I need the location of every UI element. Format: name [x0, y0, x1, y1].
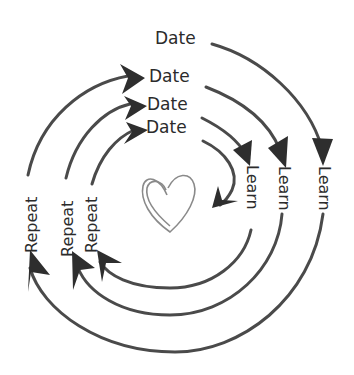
label-learn-outer: Learn	[315, 166, 334, 211]
arrowhead-heart-inner	[212, 186, 238, 208]
arrow-date-to-learn-second	[206, 87, 280, 150]
label-learn-third: Learn	[243, 165, 262, 210]
label-date-outer: Date	[155, 28, 196, 48]
label-repeat-second: Repeat	[58, 201, 77, 257]
label-repeat-outer: Repeat	[22, 197, 41, 253]
arrow-learn-to-repeat-third	[100, 230, 251, 288]
arrowhead-learn-outer	[312, 138, 333, 166]
arrow-repeat-to-date-outer	[28, 76, 128, 175]
arrowhead-date-second	[124, 96, 147, 120]
heart-icon-inner-stroke	[147, 181, 170, 226]
ring-inner	[203, 141, 238, 208]
arrowhead-date-outer	[120, 64, 145, 94]
label-date-second: Date	[149, 66, 190, 86]
arrowhead-learn-third	[233, 140, 252, 166]
label-date-inner: Date	[146, 117, 187, 137]
label-learn-second: Learn	[275, 166, 294, 211]
arrow-repeat-to-date-third	[92, 130, 134, 184]
cycle-diagram: Date Date Date Date Learn Learn Learn Re…	[0, 0, 354, 375]
label-date-third: Date	[147, 94, 188, 114]
label-repeat-third: Repeat	[82, 197, 101, 253]
arrowhead-learn-second	[268, 136, 288, 168]
